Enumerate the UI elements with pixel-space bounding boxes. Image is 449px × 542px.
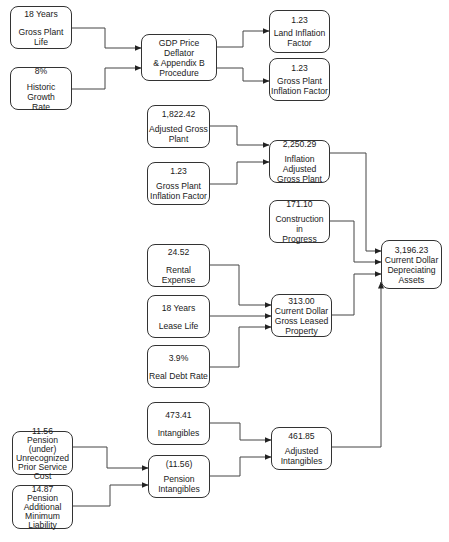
node-gdp-procedure: GDP Price Deflator & Appendix B Procedur… — [141, 34, 217, 81]
node-pension-additional-minimum-liability: 14.87 Pension Additional Minimum Liabili… — [12, 485, 73, 529]
node-land-inflation-factor: 1.23 Land Inflation Factor — [269, 10, 330, 53]
node-label: Gross Plant Life — [12, 27, 70, 47]
node-value: 171.10 — [286, 199, 312, 209]
node-label: Pension Additional Minimum Liability — [24, 494, 62, 530]
node-value: 8% — [35, 66, 47, 76]
node-value: 18 Years — [162, 303, 195, 313]
node-gross-plant-inflation-factor-top: 1.23 Gross Plant Inflation Factor — [269, 58, 330, 101]
node-value: 18 Years — [24, 9, 57, 19]
node-pension-intangibles: (11.56) Pension Intangibles — [148, 455, 210, 498]
node-label: Pension (under) Unrecognized Prior Servi… — [14, 436, 71, 481]
edge-gross-plant-life-to-gdp — [72, 28, 141, 48]
node-value: 1.23 — [291, 63, 308, 73]
node-adjusted-intangibles: 461.85 Adjusted Intangibles — [271, 427, 332, 470]
node-label: Adjusted Intangibles — [281, 446, 323, 466]
edge-inflation-adjusted-to-cdda — [330, 153, 381, 251]
edge-leased-to-cdda — [332, 274, 381, 315]
node-value: 11.56 — [32, 426, 53, 436]
node-value: 3,196.23 — [395, 245, 428, 255]
edge-gdp-to-gross-plant-inflation — [217, 68, 269, 81]
edge-pension-intangibles-to-adjusted — [210, 457, 271, 476]
node-pension-unrecognized-prior-service-cost: 11.56 Pension (under) Unrecognized Prior… — [12, 431, 73, 475]
edge-rental-to-leased — [210, 265, 271, 305]
node-gross-plant-life: 18 Years Gross Plant Life — [10, 6, 72, 49]
edge-cip-to-cdda — [330, 221, 381, 262]
node-value: 461.85 — [288, 431, 314, 441]
node-current-dollar-gross-leased-property: 313.00 Current Dollar Gross Leased Prope… — [271, 294, 332, 337]
node-current-dollar-depreciating-assets: 3,196.23 Current Dollar Depreciating Ass… — [381, 240, 442, 289]
node-label: Inflation Adjusted Gross Plant — [271, 154, 328, 184]
node-label: Real Debt Rate — [149, 371, 208, 381]
node-label: Pension Intangibles — [158, 474, 200, 494]
node-label: Historic Growth Rate — [12, 82, 70, 112]
node-inflation-adjusted-gross-plant: 2,250.29 Inflation Adjusted Gross Plant — [269, 140, 330, 183]
edge-historic-growth-to-gdp — [72, 68, 141, 89]
edge-adjusted-gross-to-inflation-adjusted — [210, 126, 269, 145]
edge-gpif-to-inflation-adjusted — [210, 162, 269, 184]
node-value: 1.23 — [291, 15, 308, 25]
node-label: Lease Life — [159, 321, 199, 331]
node-intangibles: 473.41 Intangibles — [147, 402, 210, 445]
node-construction-in-progress: 171.10 Construction in Progress — [269, 200, 330, 243]
edge-gdp-to-land-inflation — [217, 31, 269, 47]
node-value: 2,250.29 — [283, 139, 316, 149]
node-historic-growth-rate: 8% Historic Growth Rate — [10, 67, 72, 110]
node-real-debt-rate: 3.9% Real Debt Rate — [147, 345, 210, 388]
node-value: 313.00 — [288, 296, 314, 306]
node-label: Gross Plant Inflation Factor — [150, 181, 207, 201]
node-value: 1,822.42 — [162, 109, 195, 119]
node-label: Intangibles — [158, 428, 200, 438]
edge-real-debt-to-leased — [210, 327, 271, 367]
node-label: Gross Plant Inflation Factor — [271, 76, 328, 96]
node-rental-expense: 24.52 Rental Expense — [147, 244, 210, 287]
node-label: GDP Price Deflator & Appendix B Procedur… — [143, 38, 215, 78]
edge-pension-additional-to-pension-intangibles — [73, 485, 148, 506]
node-adjusted-gross-plant: 1,822.42 Adjusted Gross Plant — [147, 105, 210, 148]
node-label: Current Dollar Gross Leased Property — [275, 306, 329, 336]
node-value: 1.23 — [170, 166, 187, 176]
node-lease-life: 18 Years Lease Life — [147, 295, 210, 338]
node-label: Construction in Progress — [271, 214, 328, 244]
node-gross-plant-inflation-factor-mid: 1.23 Gross Plant Inflation Factor — [147, 162, 210, 205]
edge-pension-under-to-pension-intangibles — [73, 447, 148, 468]
node-value: 473.41 — [165, 410, 191, 420]
edge-adjusted-intangibles-to-cdda — [332, 282, 381, 447]
node-label: Adjusted Gross Plant — [149, 124, 208, 144]
node-value: (11.56) — [166, 459, 193, 469]
node-label: Land Inflation Factor — [274, 28, 326, 48]
node-value: 24.52 — [168, 247, 190, 257]
edge-intangibles-to-adjusted — [210, 423, 271, 440]
node-label: Current Dollar Depreciating Assets — [385, 255, 439, 285]
node-label: Rental Expense — [149, 265, 208, 285]
node-value: 3.9% — [169, 353, 189, 363]
